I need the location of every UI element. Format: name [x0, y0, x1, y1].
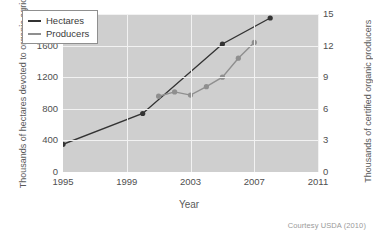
x-axis-title: Year: [60, 200, 318, 211]
data-point-hectares-2000: [140, 111, 145, 116]
x-tick-2007: 2007: [234, 176, 274, 187]
legend-item-producers: Producers: [28, 27, 89, 40]
y-tick-right-12: 12: [323, 40, 343, 51]
gridline-vertical: [318, 14, 319, 172]
y-tick-left-1200: 1200: [22, 71, 58, 82]
y-tick-right-6: 6: [323, 103, 343, 114]
gridline-vertical: [254, 14, 255, 172]
credit-text: Courtesy USDA (2010): [288, 221, 366, 230]
x-tick-2003: 2003: [171, 176, 211, 187]
y-tick-left-800: 800: [22, 103, 58, 114]
data-point-producers-2001: [156, 94, 161, 99]
x-tick-1995: 1995: [43, 176, 83, 187]
gridline-vertical: [191, 14, 192, 172]
gridline-vertical: [127, 14, 128, 172]
data-point-producers-2004: [204, 84, 209, 89]
x-tick-1999: 1999: [107, 176, 147, 187]
y-tick-right-9: 9: [323, 71, 343, 82]
y-tick-right-3: 3: [323, 134, 343, 145]
legend-label-producers: Producers: [46, 27, 89, 40]
y-tick-right-15: 15: [323, 8, 343, 19]
legend-label-hectares: Hectares: [46, 14, 84, 27]
legend-item-hectares: Hectares: [28, 14, 89, 27]
legend-swatch-hectares: [28, 20, 41, 22]
data-point-hectares-1995: [63, 142, 66, 147]
data-point-producers-2006: [236, 56, 241, 61]
data-point-producers-2002: [172, 89, 177, 94]
x-tick-2011: 2011: [298, 176, 338, 187]
y-axis-right-title: Thousands of certified organic producers: [363, 8, 373, 194]
chart-legend: Hectares Producers: [22, 10, 98, 44]
legend-swatch-producers: [28, 33, 41, 35]
plot-area: [63, 14, 318, 172]
data-point-hectares-2008: [268, 15, 273, 20]
y-tick-left-400: 400: [22, 134, 58, 145]
